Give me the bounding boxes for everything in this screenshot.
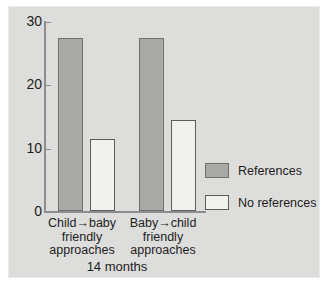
y-axis-tick-label: 0 xyxy=(2,204,42,218)
x-axis-label: 14 months xyxy=(24,259,210,274)
y-axis-tick-mark xyxy=(46,85,51,86)
chart-panel: 0102030 Child→baby friendly approaches B… xyxy=(8,6,320,278)
legend-label-no-references: No references xyxy=(238,196,317,210)
bar-references-0 xyxy=(58,38,83,211)
y-axis-tick-label: 30 xyxy=(2,14,42,28)
category-label-line: Baby→child xyxy=(105,217,221,231)
no-references-swatch-icon xyxy=(205,195,229,210)
y-axis-tick-label: 20 xyxy=(2,77,42,91)
y-axis-line xyxy=(44,21,46,212)
bar-references-1 xyxy=(139,38,164,211)
legend-item-no-references: No references xyxy=(205,191,317,214)
chart-legend: References No references xyxy=(205,159,317,223)
bar-no-references-1 xyxy=(171,120,196,211)
y-axis-tick-label: 10 xyxy=(2,141,42,155)
legend-item-references: References xyxy=(205,159,317,182)
category-label-line: friendly xyxy=(105,231,221,245)
category-label-line: approaches xyxy=(105,244,221,258)
plot-area: 0102030 Child→baby friendly approaches B… xyxy=(9,7,321,279)
x-axis-category-label-1: Baby→child friendly approaches xyxy=(105,217,221,258)
legend-label-references: References xyxy=(238,164,302,178)
x-axis-line xyxy=(44,211,206,213)
y-axis-tick-mark xyxy=(46,149,51,150)
y-axis-tick-mark xyxy=(46,22,51,23)
bar-no-references-0 xyxy=(90,139,115,211)
y-axis-tick-mark xyxy=(46,212,51,213)
references-swatch-icon xyxy=(205,163,229,178)
